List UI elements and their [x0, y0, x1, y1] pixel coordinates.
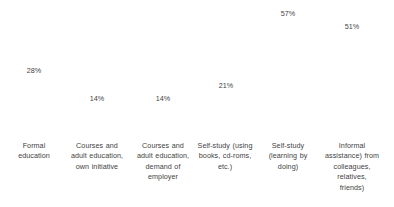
category-label-line: Informal	[319, 141, 385, 151]
category-label-courses-own-initiative: Courses and adult education, own initiat…	[64, 141, 130, 172]
category-label-line: Courses and	[64, 141, 130, 151]
category-label-line: doing)	[255, 162, 321, 172]
bar-chart: 28% 14% 14% 21% 57% 51% Formal education…	[0, 0, 394, 207]
data-label-self-study-learning-by-doing: 57%	[255, 9, 321, 18]
category-label-line: adult education,	[64, 151, 130, 161]
category-label-line: books, cd-roms,	[192, 151, 258, 161]
category-axis: Formal education Courses and adult educa…	[0, 141, 394, 207]
category-label-line: employer	[130, 172, 196, 182]
category-label-self-study-books: Self-study (using books, cd-roms, etc.)	[192, 141, 258, 172]
category-label-line: Courses and	[130, 141, 196, 151]
category-label-line: education	[1, 151, 67, 161]
category-label-line: adult education,	[130, 151, 196, 161]
data-label-formal-education: 28%	[1, 66, 67, 75]
category-label-line: own initiative	[64, 162, 130, 172]
plot-area: 28% 14% 14% 21% 57% 51%	[0, 0, 394, 140]
category-label-courses-employer-demand: Courses and adult education, demand of e…	[130, 141, 196, 183]
category-label-line: colleagues,	[319, 162, 385, 172]
category-label-informal-assistance: Informal assistance) from colleagues, re…	[319, 141, 385, 193]
data-label-self-study-books: 21%	[193, 81, 259, 90]
category-label-line: (learning by	[255, 151, 321, 161]
data-label-informal-assistance: 51%	[319, 22, 385, 31]
category-label-line: etc.)	[192, 162, 258, 172]
category-label-line: demand of	[130, 162, 196, 172]
data-label-courses-own-initiative: 14%	[64, 94, 130, 103]
category-label-line: Self-study	[255, 141, 321, 151]
category-label-line: Formal	[1, 141, 67, 151]
category-label-line: relatives,	[319, 172, 385, 182]
category-label-self-study-learning-by-doing: Self-study (learning by doing)	[255, 141, 321, 172]
category-label-line: friends)	[319, 183, 385, 193]
data-label-courses-employer-demand: 14%	[130, 94, 196, 103]
category-label-formal-education: Formal education	[1, 141, 67, 162]
category-label-line: Self-study (using	[192, 141, 258, 151]
category-label-line: assistance) from	[319, 151, 385, 161]
